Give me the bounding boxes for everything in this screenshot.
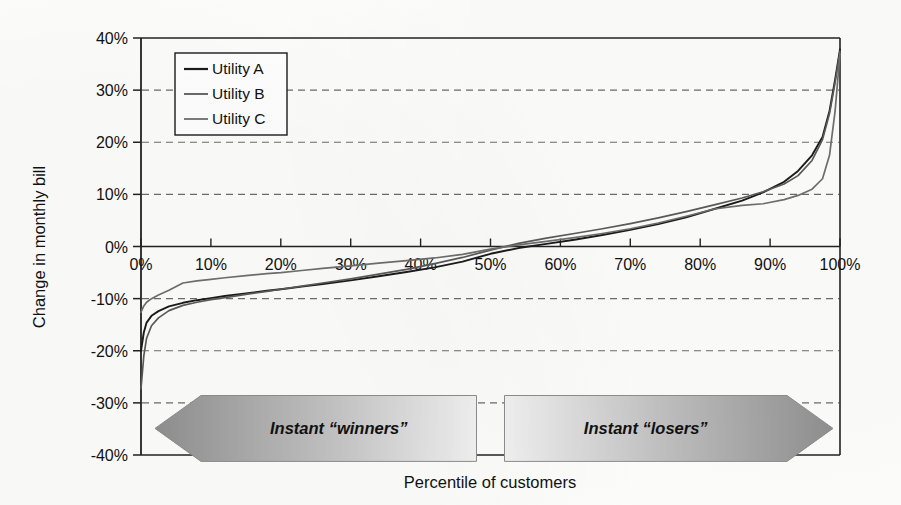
line-chart: 40%30%20%10%0%-10%-20%-30%-40% 0%10%20%3… — [0, 0, 901, 505]
y-axis-ticks: 40%30%20%10%0%-10%-20%-30%-40% — [91, 30, 141, 464]
x-tick-label: 80% — [684, 256, 716, 273]
legend-label-3[interactable]: Utility C — [212, 110, 265, 127]
y-tick-label: 0% — [105, 239, 128, 256]
y-tick-label: -40% — [91, 447, 128, 464]
y-tick-label: -20% — [91, 343, 128, 360]
y-tick-label: -10% — [91, 291, 128, 308]
y-tick-label: 10% — [96, 186, 128, 203]
x-tick-label: 10% — [195, 256, 227, 273]
y-axis-title: Change in monthly bill — [30, 166, 48, 328]
chart-figure: 40%30%20%10%0%-10%-20%-30%-40% 0%10%20%3… — [0, 0, 901, 505]
y-tick-label: 20% — [96, 134, 128, 151]
chart-legend[interactable]: Utility AUtility BUtility C — [175, 53, 287, 135]
x-tick-label: 100% — [820, 256, 861, 273]
x-axis-title: Percentile of customers — [404, 473, 576, 491]
legend-label-1[interactable]: Utility A — [212, 60, 264, 77]
y-tick-label: -30% — [91, 395, 128, 412]
y-tick-label: 30% — [96, 82, 128, 99]
winners-banner-label: Instant “winners” — [270, 419, 408, 437]
x-tick-label: 90% — [754, 256, 786, 273]
x-tick-label: 70% — [614, 256, 646, 273]
x-tick-label: 60% — [544, 256, 576, 273]
x-tick-label: 0% — [129, 256, 152, 273]
x-tick-label: 50% — [474, 256, 506, 273]
y-tick-label: 40% — [96, 30, 128, 47]
losers-banner-label: Instant “losers” — [584, 419, 709, 437]
x-tick-label: 20% — [265, 256, 297, 273]
legend-label-2[interactable]: Utility B — [212, 85, 265, 102]
